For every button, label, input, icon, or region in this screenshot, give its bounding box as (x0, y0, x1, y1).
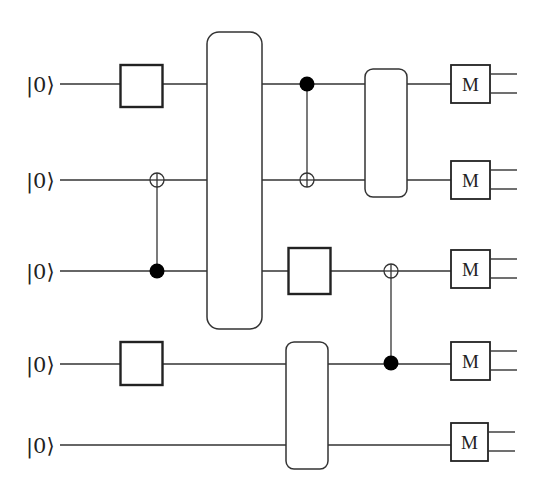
measurement-label: M (461, 432, 478, 453)
control-dot-icon (384, 356, 399, 371)
single-qubit-gate-q0 (121, 65, 163, 107)
qubit-0-label: |0⟩ (26, 73, 55, 98)
multi-qubit-unitary-q3-q4 (286, 342, 328, 469)
cnot-gate-3 (384, 264, 399, 371)
target-xor-icon (384, 264, 398, 278)
measurement-label: M (462, 74, 479, 95)
multi-qubit-unitary-q0-q2 (207, 32, 262, 329)
single-qubit-gate-q2 (289, 248, 331, 294)
qubit-2-label: |0⟩ (26, 260, 55, 285)
cnot-gate-1 (150, 173, 165, 279)
cnot-gate-2 (300, 77, 315, 188)
measurement-q0: M (451, 65, 517, 103)
qubit-labels: |0⟩ |0⟩ |0⟩ |0⟩ |0⟩ (26, 73, 55, 459)
quantum-circuit-diagram: |0⟩ |0⟩ |0⟩ |0⟩ |0⟩ (0, 0, 540, 492)
measurement-q4: M (451, 423, 515, 461)
multi-qubit-unitary-q0-q1 (365, 69, 407, 197)
measurement-label: M (462, 351, 479, 372)
single-qubit-gate-q3 (121, 342, 163, 385)
target-xor-icon (300, 173, 314, 187)
measurement-q3: M (451, 342, 517, 380)
qubit-4-label: |0⟩ (26, 434, 55, 459)
qubit-3-label: |0⟩ (26, 353, 55, 378)
measurement-q1: M (451, 161, 517, 199)
control-dot-icon (150, 264, 165, 279)
measurement-q2: M (451, 250, 517, 288)
target-xor-icon (150, 173, 164, 187)
measurement-label: M (462, 170, 479, 191)
control-dot-icon (300, 77, 315, 92)
qubit-1-label: |0⟩ (26, 169, 55, 194)
measurement-label: M (462, 259, 479, 280)
